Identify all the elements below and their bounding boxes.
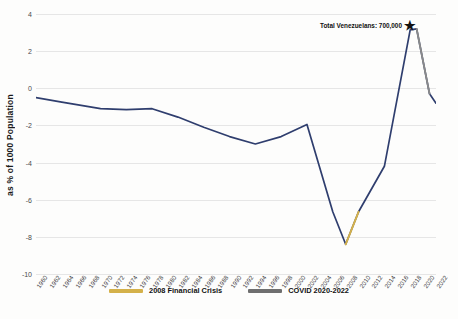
- highlight-segment-financial-crisis: [346, 212, 359, 245]
- legend-swatch-financial-crisis: [109, 289, 143, 293]
- plot-area: 420-2-4-6-8-10: [36, 14, 436, 274]
- y-axis-tick-label: 4: [28, 11, 32, 18]
- y-axis-tick-label: -6: [26, 196, 32, 203]
- chart-figure: as % of 1000 Population 420-2-4-6-8-10 1…: [0, 0, 458, 319]
- annotation-total-venezuelans: Total Venezuelans: 700,000 ★: [320, 19, 416, 32]
- y-axis-tick-label: -4: [26, 159, 32, 166]
- y-axis-tick-label: -8: [26, 233, 32, 240]
- series-line-net-migration: [36, 29, 436, 244]
- legend-item-covid[interactable]: COVID 2020-2022: [248, 286, 349, 295]
- y-axis-tick-label: 2: [28, 48, 32, 55]
- y-axis-tick-label: -2: [26, 122, 32, 129]
- line-series-svg: [36, 14, 436, 274]
- y-axis-tick-label: -10: [22, 271, 32, 278]
- legend-label-covid: COVID 2020-2022: [288, 286, 349, 295]
- y-axis-tick-label: 0: [28, 85, 32, 92]
- chart-legend: 2008 Financial Crisis COVID 2020-2022: [0, 286, 458, 295]
- series-layer: [36, 14, 436, 274]
- legend-item-financial-crisis[interactable]: 2008 Financial Crisis: [109, 286, 222, 295]
- legend-label-financial-crisis: 2008 Financial Crisis: [149, 286, 222, 295]
- y-axis-title: as % of 1000 Population: [2, 60, 18, 230]
- annotation-label: Total Venezuelans: 700,000: [320, 22, 402, 29]
- highlight-segment-covid: [417, 29, 430, 94]
- legend-swatch-covid: [248, 289, 282, 293]
- star-icon: ★: [404, 19, 416, 32]
